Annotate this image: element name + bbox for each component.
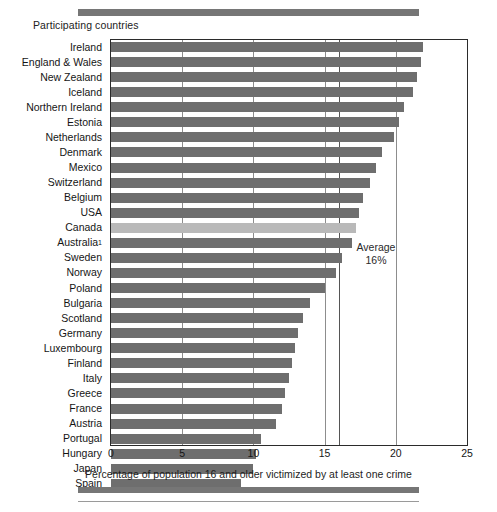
bar <box>111 268 336 278</box>
bar <box>111 388 285 398</box>
bar <box>111 102 404 112</box>
bar-row <box>111 145 467 160</box>
bar-row <box>111 70 467 85</box>
bar <box>111 87 413 97</box>
bar <box>111 117 399 127</box>
category-label: Netherlands <box>0 129 106 144</box>
category-label: Poland <box>0 280 106 295</box>
bar-row <box>111 206 467 221</box>
category-label: Norway <box>0 265 106 280</box>
bar-row <box>111 115 467 130</box>
bar-row <box>111 236 467 251</box>
bar-row <box>111 341 467 356</box>
bar-row <box>111 191 467 206</box>
average-label: Average <box>345 241 407 254</box>
bar <box>111 72 417 82</box>
bar-row <box>111 40 467 55</box>
bar <box>111 238 352 248</box>
category-label: Scotland <box>0 310 106 325</box>
x-tick-label-5: 5 <box>179 447 185 459</box>
bar-row <box>111 176 467 191</box>
category-label: Canada <box>0 220 106 235</box>
bar-row <box>111 281 467 296</box>
bar-row <box>111 85 467 100</box>
bar-row <box>111 221 467 236</box>
category-label: Northern Ireland <box>0 99 106 114</box>
bar <box>111 193 363 203</box>
category-label: Ireland <box>0 39 106 54</box>
category-label: Austria <box>0 416 106 431</box>
bar-row <box>111 100 467 115</box>
bar-row <box>111 266 467 281</box>
bar <box>111 178 370 188</box>
category-label: Bulgaria <box>0 295 106 310</box>
category-label: France <box>0 401 106 416</box>
x-tick-label-20: 20 <box>390 447 402 459</box>
bar <box>111 163 376 173</box>
bar-row <box>111 326 467 341</box>
average-annotation: Average 16% <box>345 241 407 267</box>
bar <box>111 208 359 218</box>
bar <box>111 358 292 368</box>
bar-row <box>111 417 467 432</box>
bar <box>111 253 342 263</box>
bar <box>111 313 303 323</box>
bar <box>111 132 394 142</box>
bar <box>111 57 421 67</box>
bar-row <box>111 55 467 70</box>
bar <box>111 147 382 157</box>
category-label: New Zealand <box>0 69 106 84</box>
average-value: 16% <box>345 254 407 267</box>
bar <box>111 343 295 353</box>
bar-row <box>111 356 467 371</box>
x-tick-label-15: 15 <box>319 447 331 459</box>
category-axis-labels: IrelandEngland & WalesNew ZealandIceland… <box>0 39 106 446</box>
bar-row <box>111 161 467 176</box>
category-label: Italy <box>0 370 106 385</box>
bottom-rule <box>78 487 419 493</box>
top-rule <box>78 9 419 16</box>
bar <box>111 223 356 233</box>
category-label: Estonia <box>0 114 106 129</box>
category-label: USA <box>0 205 106 220</box>
x-tick-label-10: 10 <box>248 447 260 459</box>
bar-row <box>111 371 467 386</box>
x-tick-label-25: 25 <box>461 447 473 459</box>
category-label: Hungary <box>0 446 106 461</box>
category-label: Sweden <box>0 250 106 265</box>
category-label: England & Wales <box>0 54 106 69</box>
bar-row <box>111 251 467 266</box>
category-label: Switzerland <box>0 175 106 190</box>
bottom-hairline <box>78 501 419 502</box>
bar <box>111 298 310 308</box>
category-label: Denmark <box>0 144 106 159</box>
category-label: Mexico <box>0 160 106 175</box>
plot-area <box>110 39 468 446</box>
value-axis-ticks: 0510152025 <box>110 447 468 463</box>
bar-row <box>111 130 467 145</box>
category-label: Australia1 <box>0 235 106 250</box>
category-label: Belgium <box>0 190 106 205</box>
axis-title: Percentage of population 16 and older vi… <box>0 468 497 480</box>
chart-caption: Participating countries <box>33 19 139 31</box>
category-label: Greece <box>0 385 106 400</box>
category-label: Iceland <box>0 84 106 99</box>
bar-row <box>111 296 467 311</box>
category-label: Germany <box>0 325 106 340</box>
bar-row <box>111 402 467 417</box>
x-tick-label-0: 0 <box>108 447 114 459</box>
bar <box>111 419 276 429</box>
bar-series <box>111 40 467 445</box>
bar-row <box>111 432 467 447</box>
category-label: Luxembourg <box>0 340 106 355</box>
category-label: Finland <box>0 355 106 370</box>
bar <box>111 404 282 414</box>
bar <box>111 434 261 444</box>
bar-row <box>111 386 467 401</box>
bar <box>111 283 325 293</box>
bar <box>111 42 423 52</box>
bar <box>111 328 298 338</box>
bar <box>111 373 289 383</box>
bar-row <box>111 311 467 326</box>
category-label: Portugal <box>0 431 106 446</box>
